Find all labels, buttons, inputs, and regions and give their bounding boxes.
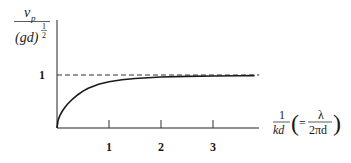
x-label-inner-numerator: λ: [318, 108, 324, 122]
x-axis-label: 1 kd ( = λ 2πd ): [273, 108, 341, 137]
x-tick-label-1: 1: [106, 140, 112, 154]
y-label-numerator: v: [24, 5, 31, 20]
x-tick-label-3: 3: [210, 140, 216, 154]
x-label-frac-denominator: kd: [273, 123, 285, 137]
y-axis-label: v p (gd) 1 2: [14, 5, 50, 46]
x-label-frac-numerator: 1: [279, 108, 285, 122]
x-label-paren-open: (: [291, 110, 299, 136]
x-label-paren-close: ): [333, 110, 341, 136]
y-label-denominator: (gd): [15, 30, 39, 46]
ticks: 1231: [39, 68, 216, 154]
series-line: [57, 76, 255, 128]
x-label-equals: =: [299, 116, 306, 130]
x-tick-label-2: 2: [158, 140, 164, 154]
chart: 1231 v p (gd) 1 2 1 kd ( = λ 2πd ): [0, 0, 351, 163]
axes: [57, 20, 259, 128]
y-tick-label-1: 1: [39, 68, 45, 82]
x-label-inner-denominator: 2πd: [309, 123, 327, 137]
y-label-exponent-numerator: 1: [42, 22, 46, 31]
y-label-exponent-denominator: 2: [42, 31, 46, 40]
